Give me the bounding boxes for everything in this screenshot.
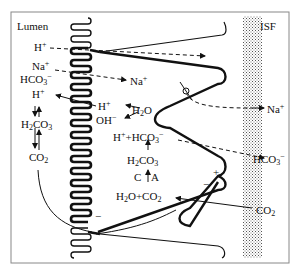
cell-oh-minus: OH− [96, 114, 116, 126]
cell-h2co3: H2CO3 [127, 154, 158, 166]
charge-minus-right: − [203, 178, 209, 190]
cell-h2o-co2: H2O+CO2 [116, 190, 161, 202]
lumen-h-plus-top: H+ [34, 41, 46, 53]
enzyme-a-label: A [151, 171, 159, 183]
isf-co2: CO2 [256, 204, 275, 216]
lumen-co2: CO2 [29, 151, 48, 163]
basement-membrane [243, 16, 262, 258]
lumen-h2co3: H2CO3 [21, 118, 52, 130]
cell-na-plus: Na+ [130, 75, 147, 87]
lumen-na-plus: Na+ [32, 60, 49, 72]
cell-h-plus-hco3: H++HCO3− [113, 131, 163, 143]
enzyme-c-label: C [134, 171, 141, 183]
isf-hco3-minus: HCO3− [253, 153, 285, 165]
lumen-h-plus: H+ [32, 88, 44, 100]
lumen-label: Lumen [17, 20, 48, 32]
lumen-hco3: HCO3− [20, 73, 52, 85]
microvilli-brush-border [71, 18, 91, 48]
charge-minus-bottom: − [95, 210, 101, 222]
charge-plus-right: + [213, 166, 219, 178]
isf-label: ISF [260, 20, 276, 32]
cell-h2o: H2O [132, 104, 152, 116]
isf-na-plus: Na+ [267, 103, 284, 115]
cell-h-plus: H+ [98, 100, 110, 112]
